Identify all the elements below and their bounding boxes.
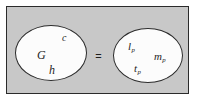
- diagram-panel: G c h = lp mp tp: [6, 6, 189, 94]
- constants-set-ellipse: G c h: [15, 25, 87, 81]
- symbol-planck-length: lp: [128, 41, 134, 52]
- equals-sign: =: [95, 53, 102, 59]
- planck-units-equivalence-figure: G c h = lp mp tp: [0, 0, 197, 104]
- planck-units-set-ellipse: lp mp tp: [113, 28, 183, 83]
- symbol-speed-of-light: c: [62, 33, 66, 43]
- symbol-planck-length-subscript: p: [131, 46, 134, 53]
- symbol-planck-constant: h: [49, 64, 55, 76]
- symbol-gravitational-constant: G: [37, 49, 46, 61]
- symbol-planck-mass-subscript: p: [162, 56, 165, 63]
- symbol-planck-time: tp: [134, 63, 140, 74]
- symbol-planck-mass: mp: [154, 51, 165, 62]
- symbol-planck-mass-base: m: [154, 50, 162, 62]
- symbol-planck-time-subscript: p: [137, 68, 140, 75]
